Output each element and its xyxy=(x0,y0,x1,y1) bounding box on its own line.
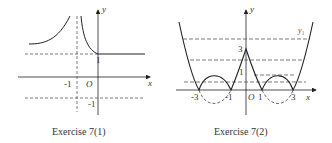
fig2-x-neg-one-label: -1 xyxy=(225,92,233,102)
fig2-y-label: y xyxy=(250,4,254,14)
fig1-x-neg-one-label: -1 xyxy=(64,79,72,89)
diagrams-canvas xyxy=(0,0,332,143)
curve-right-branch xyxy=(81,16,98,54)
fig2-x-label: x xyxy=(306,92,310,102)
fig1-y-neg-one-label: -1 xyxy=(88,99,96,109)
fig2-x-one-label: 1 xyxy=(258,92,263,102)
fig2-x-neg-three-label: -3 xyxy=(191,92,199,102)
fig2-y-three-label: 3 xyxy=(238,44,243,54)
figure-1 xyxy=(18,10,150,115)
reflected-hump-right xyxy=(262,90,293,104)
fig2-origin-label: O xyxy=(248,92,255,102)
fig2-y1-label: y₁ xyxy=(298,26,304,35)
fig2-x-three-label: 3 xyxy=(291,92,296,102)
fig1-origin-label: O xyxy=(86,79,93,89)
curve-left-branch xyxy=(29,16,70,44)
fig1-caption: Exercise 7(1) xyxy=(52,126,106,137)
fig1-y-one-label: 1 xyxy=(96,55,101,65)
fig2-caption: Exercise 7(2) xyxy=(214,126,268,137)
fig1-y-label: y xyxy=(102,4,106,14)
fig1-x-label: x xyxy=(148,78,152,88)
fig2-y-one-label: 1 xyxy=(239,67,244,77)
